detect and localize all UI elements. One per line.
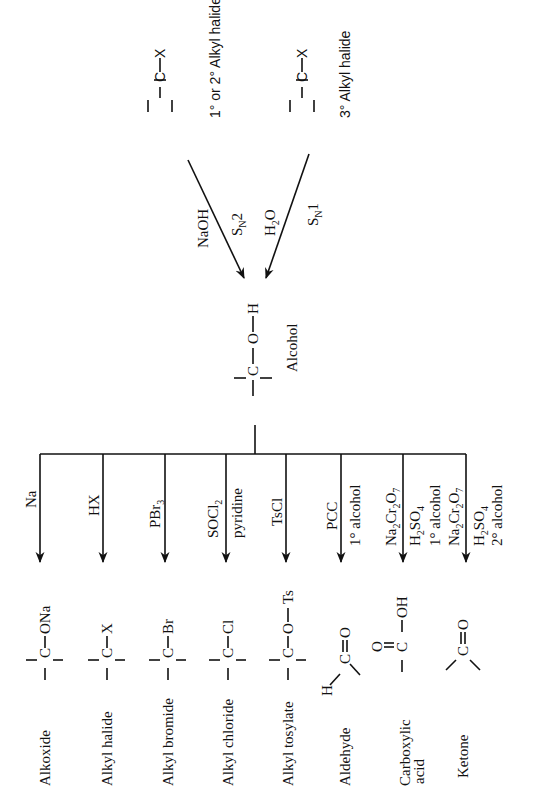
atom-o: O [245, 333, 261, 344]
svg-text:O: O [280, 623, 296, 634]
svg-text:C: C [99, 648, 115, 658]
svg-text:Ts: Ts [280, 590, 296, 604]
svg-text:C: C [160, 648, 176, 658]
reagent-tscl: TsCl [269, 498, 285, 526]
svg-text:H: H [319, 685, 335, 696]
svg-text:C: C [280, 648, 296, 658]
source-label: 1° or 2° Alkyl halide [207, 0, 223, 118]
product-aldehyde: H C O Aldehyde [319, 627, 360, 786]
svg-text:Na2Cr2O7: Na2Cr2O7 [383, 488, 402, 546]
product-label: Alkyl chloride [220, 699, 236, 786]
reagent-h2o: H2O [262, 209, 281, 236]
substituent: Cl [220, 620, 236, 634]
structure-c-x: C X [148, 48, 172, 112]
product-label: Aldehyde [337, 727, 353, 786]
product-label: Alkyl bromide [160, 698, 176, 786]
reagent-naoh: NaOH [195, 209, 211, 248]
atom-x: X [152, 48, 168, 58]
product-label: Alkyl tosylate [280, 701, 296, 786]
svg-text:C: C [220, 648, 236, 658]
condition-primary-alcohol-acid: 1° alcohol [427, 485, 443, 546]
svg-text:O: O [337, 627, 353, 638]
condition-pyridine: pyridine [229, 488, 245, 538]
svg-text:H2SO4: H2SO4 [407, 506, 426, 546]
svg-text:C: C [394, 642, 410, 652]
svg-text:C: C [37, 648, 53, 658]
product-label: Ketone [455, 734, 471, 778]
svg-text:H2O: H2O [262, 209, 281, 236]
reagent-na2cr2o7-acid: Na2Cr2O7 [383, 488, 402, 546]
atom-c: C [294, 72, 310, 82]
svg-text:OH: OH [394, 596, 410, 618]
svg-text:C: C [455, 646, 471, 656]
product-label-line2: acid [411, 759, 427, 784]
reagent-hx: HX [86, 494, 102, 516]
reagent-h2so4-acid: H2SO4 [407, 506, 426, 546]
svg-text:O: O [369, 641, 385, 652]
reagent-socl2: SOCl2 [205, 500, 224, 538]
atom-c: C [152, 72, 168, 82]
reagent-h2so4-ketone: H2SO4 [471, 506, 490, 546]
atom-h: H [245, 303, 261, 314]
source-primary-secondary-alkyl-halide: C X 1° or 2° Alkyl halide [148, 0, 223, 118]
source-label: 3° Alkyl halide [337, 30, 353, 118]
source-tertiary-alkyl-halide: C X 3° Alkyl halide [290, 30, 353, 118]
reagent-pbr3: PBr3 [147, 500, 166, 528]
product-carboxylic-acid: O C OH Carboxylic acid [369, 596, 427, 786]
substituent: Br [160, 619, 176, 634]
svg-text:SN1: SN1 [305, 203, 324, 226]
product-alkyl-bromide: C Br Alkyl bromide [149, 619, 186, 786]
product-alkyl-halide: C X Alkyl halide [88, 623, 125, 786]
mechanism-sn2: SN2 [229, 213, 248, 236]
reagent-na2cr2o7-ketone: Na2Cr2O7 [446, 488, 465, 546]
product-label: Alkoxide [37, 730, 53, 786]
product-alkyl-chloride: C Cl Alkyl chloride [209, 620, 246, 786]
product-ketone: C O Ketone [446, 619, 480, 778]
mechanism-sn1: SN1 [305, 203, 324, 226]
product-alkyl-tosylate: C O Ts Alkyl tosylate [269, 590, 306, 786]
atom-c: C [245, 366, 261, 376]
condition-primary-alcohol: 1° alcohol [347, 485, 363, 546]
svg-text:C: C [337, 654, 353, 664]
reagent-pcc: PCC [324, 502, 340, 530]
svg-text:SN2: SN2 [229, 213, 248, 236]
center-alcohol: C O H Alcohol [234, 303, 300, 396]
condition-secondary-alcohol: 2° alcohol [489, 485, 505, 546]
svg-text:Na2Cr2O7: Na2Cr2O7 [446, 488, 465, 546]
center-label: Alcohol [284, 324, 300, 372]
svg-text:O: O [455, 619, 471, 630]
substituent: X [99, 623, 115, 634]
reagent-na: Na [23, 490, 39, 508]
svg-text:H2SO4: H2SO4 [471, 506, 490, 546]
substituent: ONa [37, 605, 53, 634]
reaction-diagram: C X 1° or 2° Alkyl halide C X 3° Alkyl h… [0, 0, 546, 810]
product-label: Alkyl halide [99, 711, 115, 786]
product-alkoxide: C ONa Alkoxide [26, 605, 63, 786]
atom-x: X [294, 48, 310, 58]
svg-text:SOCl2: SOCl2 [205, 500, 224, 538]
svg-text:PBr3: PBr3 [147, 500, 166, 528]
